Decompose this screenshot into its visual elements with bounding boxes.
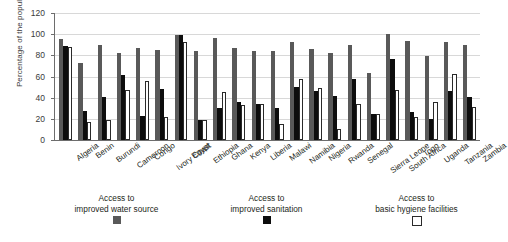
bar-group xyxy=(306,13,325,140)
bar-hygiene xyxy=(279,124,283,140)
bar-group xyxy=(171,13,190,140)
bar-hygiene xyxy=(260,104,264,140)
bar-group xyxy=(268,13,287,140)
x-axis-label: Liberia xyxy=(268,141,293,162)
bar-group xyxy=(94,13,113,140)
bar-hygiene xyxy=(106,120,110,140)
bar-hygiene xyxy=(433,102,437,140)
bar-hygiene xyxy=(356,104,360,140)
bar-hygiene xyxy=(414,117,418,140)
legend-swatch-sanit xyxy=(263,216,271,224)
bar-group xyxy=(133,13,152,140)
legend-label-line2: improved water source xyxy=(54,204,179,215)
bar-group xyxy=(383,13,402,140)
bar-group xyxy=(460,13,479,140)
y-axis-tick-label: 60 xyxy=(36,72,45,82)
legend-label-line1: Access to xyxy=(54,193,179,204)
legend-label-line2: improved sanitation xyxy=(204,204,329,215)
legend-item: Access toimproved water source xyxy=(54,193,179,238)
bar-hygiene xyxy=(299,79,303,140)
bar-hygiene xyxy=(452,74,456,140)
legend-swatch-water xyxy=(113,216,121,224)
bar-hygiene xyxy=(395,90,399,140)
x-axis-label: Kenya xyxy=(249,141,273,162)
bar-group xyxy=(152,13,171,140)
bar-hygiene xyxy=(164,117,168,140)
y-axis-tick-label: 0 xyxy=(40,135,45,145)
bar-hygiene xyxy=(202,120,206,140)
bar-hygiene xyxy=(87,122,91,140)
y-axis-tick-label: 80 xyxy=(36,50,45,60)
bar-hygiene xyxy=(376,114,380,140)
bar-group xyxy=(56,13,75,140)
y-axis-title: Percentage of the population xyxy=(15,0,24,100)
y-axis-tick-label: 40 xyxy=(36,93,45,103)
bar-group xyxy=(345,13,364,140)
bar-group xyxy=(75,13,94,140)
bar-hygiene xyxy=(222,92,226,140)
legend-item: Access toimproved sanitation xyxy=(204,193,329,238)
chart-legend: Access toimproved water sourceAccess toi… xyxy=(54,193,479,238)
bar-hygiene xyxy=(241,105,245,140)
bar-groups xyxy=(55,13,480,140)
bar-group xyxy=(229,13,248,140)
bar-group xyxy=(325,13,344,140)
bar-group xyxy=(421,13,440,140)
y-axis-tick-label: 100 xyxy=(31,29,45,39)
bar-group xyxy=(210,13,229,140)
bar-group xyxy=(191,13,210,140)
x-axis-labels: AlgeriaBeninBurundiCameroonCongoIvory Co… xyxy=(54,141,479,189)
bar-group xyxy=(364,13,383,140)
bar-group xyxy=(248,13,267,140)
legend-swatch-hygiene xyxy=(412,216,422,226)
bar-group xyxy=(287,13,306,140)
bar-group xyxy=(441,13,460,140)
bar-hygiene xyxy=(125,90,129,140)
bar-hygiene xyxy=(337,129,341,140)
plot-area: 120100806040200 xyxy=(54,13,480,141)
bar-hygiene xyxy=(472,107,476,140)
bar-hygiene xyxy=(183,42,187,140)
legend-label-line1: Access to xyxy=(354,193,479,204)
bar-group xyxy=(114,13,133,140)
bar-hygiene xyxy=(318,88,322,140)
y-axis-tick-label: 20 xyxy=(36,114,45,124)
bar-group xyxy=(402,13,421,140)
legend-label-line1: Access to xyxy=(204,193,329,204)
legend-label-line2: basic hygiene facilities xyxy=(354,204,479,215)
bar-hygiene xyxy=(145,81,149,140)
legend-item: Access tobasic hygiene facilities xyxy=(354,193,479,238)
bar-hygiene xyxy=(68,47,72,140)
y-axis-tick-label: 120 xyxy=(31,8,45,18)
